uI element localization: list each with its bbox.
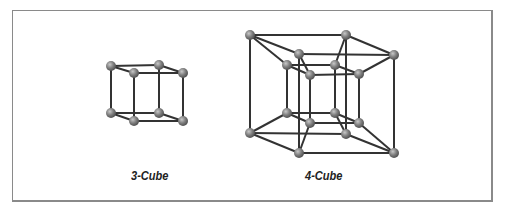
cube4-label: 4-Cube	[305, 168, 342, 183]
hypercube-diagram	[0, 0, 506, 209]
cube3-edges	[111, 65, 183, 121]
cube3-label: 3-Cube	[131, 168, 168, 183]
cube4-edges	[250, 35, 394, 153]
